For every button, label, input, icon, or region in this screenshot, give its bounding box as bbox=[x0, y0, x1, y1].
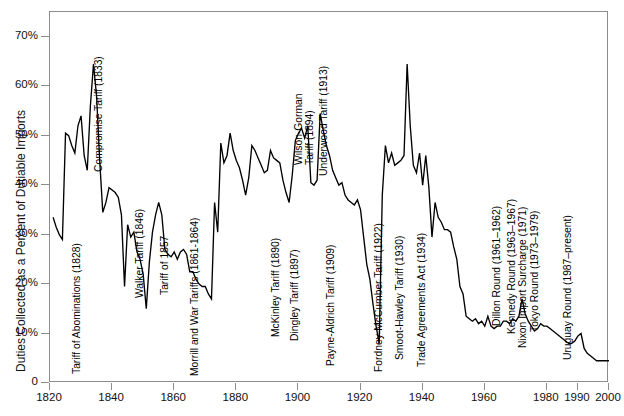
annotation-line: Tokyo Round (1973–1979) bbox=[529, 211, 541, 332]
y-axis-tick-label: 10% bbox=[0, 327, 38, 339]
x-axis-tick-label: 1860 bbox=[160, 392, 186, 404]
x-axis-tick bbox=[297, 383, 298, 390]
x-axis-tick bbox=[360, 383, 361, 390]
x-axis-tick bbox=[49, 383, 50, 390]
x-axis-tick bbox=[577, 383, 578, 390]
annotation-line: Tariff of 1857 bbox=[159, 236, 171, 295]
annotation-label: Tokyo Round (1973–1979) bbox=[529, 211, 541, 332]
annotation-label: Uruguay Round (1987–present) bbox=[562, 215, 574, 360]
annotation-label: Dillon Round (1961–1962) bbox=[491, 206, 503, 326]
annotation-label: Compromise Tariff (1833) bbox=[93, 56, 105, 172]
y-axis-tick bbox=[41, 382, 49, 383]
annotation-line: Morrill and War Tariffs (1861-1864) bbox=[189, 218, 201, 376]
chart-root: Duties Collected as a Percent of Dutiabl… bbox=[0, 0, 624, 416]
annotation-line: Wilson-Gorman bbox=[293, 93, 304, 165]
annotation-line: Walker Tariff (1846) bbox=[134, 209, 146, 298]
x-axis-tick-label: 2000 bbox=[595, 392, 621, 404]
annotation-label: Payne-Aldrich Tariff (1909) bbox=[325, 244, 337, 366]
y-axis-tick bbox=[41, 184, 49, 185]
x-axis-tick-label: 1880 bbox=[223, 392, 249, 404]
annotation-label: Tariff of 1857 bbox=[159, 236, 171, 295]
y-axis-tick-label: 40% bbox=[0, 178, 38, 190]
annotation-line: Payne-Aldrich Tariff (1909) bbox=[325, 244, 337, 366]
annotation-label: Walker Tariff (1846) bbox=[134, 209, 146, 298]
annotation-line: Underwood Tariff (1913) bbox=[318, 66, 330, 176]
annotation-line: Kennedy Round (1963–1967) bbox=[506, 199, 518, 334]
y-axis-tick-label: 60% bbox=[0, 79, 38, 91]
annotation-line: Smoot-Hawley Tariff (1930) bbox=[394, 236, 406, 360]
annotation-label: Trade Agreements Act (1934) bbox=[416, 233, 428, 367]
x-axis-tick-label: 1820 bbox=[36, 392, 62, 404]
annotation-label: Underwood Tariff (1913) bbox=[318, 66, 330, 176]
annotation-label: Wilson-GormanTariff (1894) bbox=[293, 93, 315, 165]
x-axis-tick bbox=[422, 383, 423, 390]
y-axis-tick bbox=[41, 234, 49, 235]
y-axis-tick-label: 50% bbox=[0, 129, 38, 141]
x-axis-tick bbox=[608, 383, 609, 390]
x-axis-tick-label: 1940 bbox=[409, 392, 435, 404]
y-axis-tick bbox=[41, 333, 49, 334]
y-axis-tick-label: 70% bbox=[0, 30, 38, 42]
y-axis-tick bbox=[41, 135, 49, 136]
x-axis-tick bbox=[173, 383, 174, 390]
annotation-line: McKinley Tariff (1890) bbox=[270, 238, 282, 337]
annotation-line: Dingley Tariff (1897) bbox=[289, 249, 301, 341]
x-axis-tick-label: 1990 bbox=[564, 392, 590, 404]
x-axis-tick bbox=[546, 383, 547, 390]
x-axis-tick-label: 1980 bbox=[533, 392, 559, 404]
annotation-label: Nixon Import Surcharge (1971) bbox=[517, 207, 529, 348]
annotation-label: Kennedy Round (1963–1967) bbox=[506, 199, 518, 334]
annotation-line: Dillon Round (1961–1962) bbox=[491, 206, 503, 326]
x-axis-tick bbox=[111, 383, 112, 390]
x-axis-tick bbox=[235, 383, 236, 390]
y-axis-tick bbox=[41, 283, 49, 284]
y-axis-tick-label: 30% bbox=[0, 228, 38, 240]
annotation-line: Compromise Tariff (1833) bbox=[93, 56, 105, 172]
annotation-label: Smoot-Hawley Tariff (1930) bbox=[394, 236, 406, 360]
annotation-line: Tariff of Abominations (1828) bbox=[71, 243, 83, 374]
annotation-label: Fordney-McCumber Tariff (1922) bbox=[373, 223, 385, 372]
annotation-line: Trade Agreements Act (1934) bbox=[416, 233, 428, 367]
x-axis-tick-label: 1840 bbox=[98, 392, 124, 404]
y-axis-tick bbox=[41, 36, 49, 37]
annotation-line: Uruguay Round (1987–present) bbox=[562, 215, 574, 360]
x-axis-tick bbox=[484, 383, 485, 390]
y-axis-tick-label: 0 bbox=[0, 376, 38, 388]
annotation-label: Morrill and War Tariffs (1861-1864) bbox=[189, 218, 201, 376]
annotation-label: McKinley Tariff (1890) bbox=[270, 238, 282, 337]
x-axis-tick-label: 1900 bbox=[285, 392, 311, 404]
annotation-label: Dingley Tariff (1897) bbox=[289, 249, 301, 341]
y-axis-tick bbox=[41, 85, 49, 86]
annotation-line: Tariff (1894) bbox=[304, 93, 315, 165]
annotation-line: Nixon Import Surcharge (1971) bbox=[517, 207, 529, 348]
annotation-line: Fordney-McCumber Tariff (1922) bbox=[373, 223, 385, 372]
annotation-label: Tariff of Abominations (1828) bbox=[71, 243, 83, 374]
x-axis-tick-label: 1920 bbox=[347, 392, 373, 404]
x-axis-tick-label: 1960 bbox=[471, 392, 497, 404]
y-axis-tick-label: 20% bbox=[0, 277, 38, 289]
